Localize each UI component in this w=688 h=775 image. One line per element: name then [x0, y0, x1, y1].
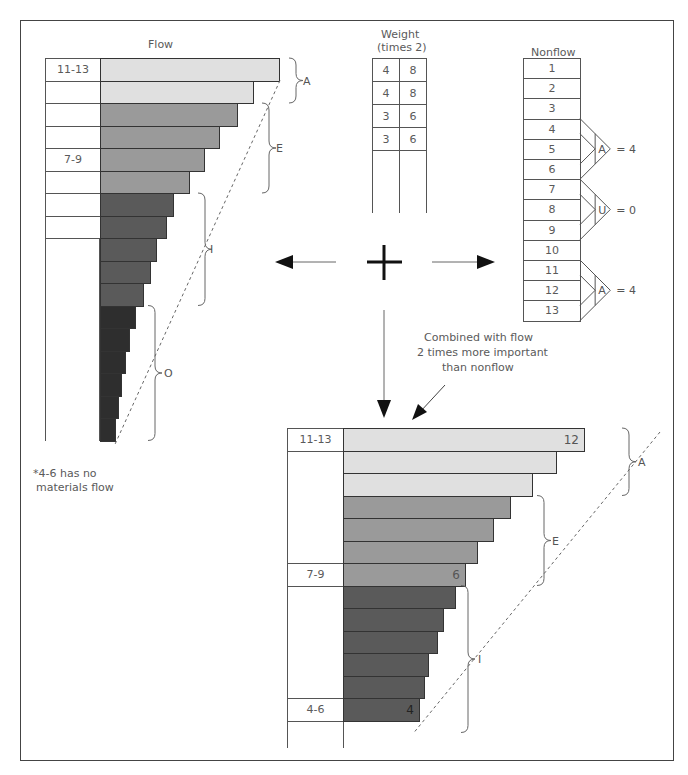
group-label: I — [478, 653, 481, 666]
brace-icon — [537, 496, 551, 586]
group-label: E — [552, 535, 559, 548]
trend-line — [414, 432, 660, 733]
group-label: A — [638, 456, 646, 469]
brace-icon — [622, 428, 636, 496]
brace-icon — [461, 586, 475, 733]
